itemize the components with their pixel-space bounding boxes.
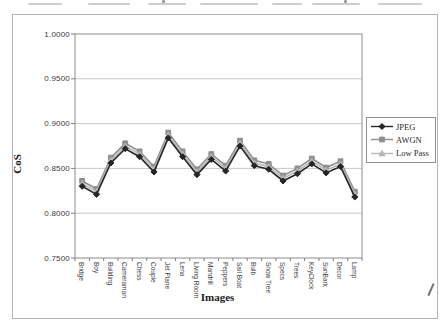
legend-entry-awgn: AWGN bbox=[371, 134, 435, 146]
y-tick-label: 0.8500 bbox=[28, 164, 70, 173]
plot-area bbox=[70, 30, 370, 266]
square-marker-icon bbox=[371, 135, 393, 144]
scan-artifact bbox=[378, 3, 422, 5]
scan-speck bbox=[344, 0, 347, 3]
x-axis-title: Images bbox=[75, 291, 360, 303]
diamond-marker-icon bbox=[371, 122, 393, 131]
scan-speck bbox=[162, 0, 165, 3]
y-tick-label: 0.9500 bbox=[28, 74, 70, 83]
legend-entry-jpeg: JPEG bbox=[371, 121, 435, 133]
y-tick-label: 0.7500 bbox=[28, 254, 70, 263]
scan-artifact bbox=[272, 3, 302, 5]
series-jpeg bbox=[79, 135, 358, 200]
triangle-marker-icon bbox=[371, 149, 393, 158]
y-axis-title: CoS bbox=[11, 149, 23, 179]
legend-label: AWGN bbox=[396, 135, 422, 145]
scan-artifact bbox=[148, 3, 186, 5]
y-tick-label: 0.8000 bbox=[28, 209, 70, 218]
scan-artifact bbox=[88, 3, 130, 5]
y-tick-label: 0.9000 bbox=[28, 119, 70, 128]
scan-artifact bbox=[200, 3, 258, 5]
legend-label: Low Pass bbox=[396, 148, 429, 158]
scan-artifact bbox=[28, 3, 62, 5]
legend: JPEGAWGNLow Pass bbox=[366, 117, 436, 163]
legend-label: JPEG bbox=[396, 122, 415, 132]
legend-entry-low-pass: Low Pass bbox=[371, 147, 435, 159]
y-tick-label: 1.0000 bbox=[28, 30, 70, 39]
scan-artifact bbox=[312, 3, 360, 5]
